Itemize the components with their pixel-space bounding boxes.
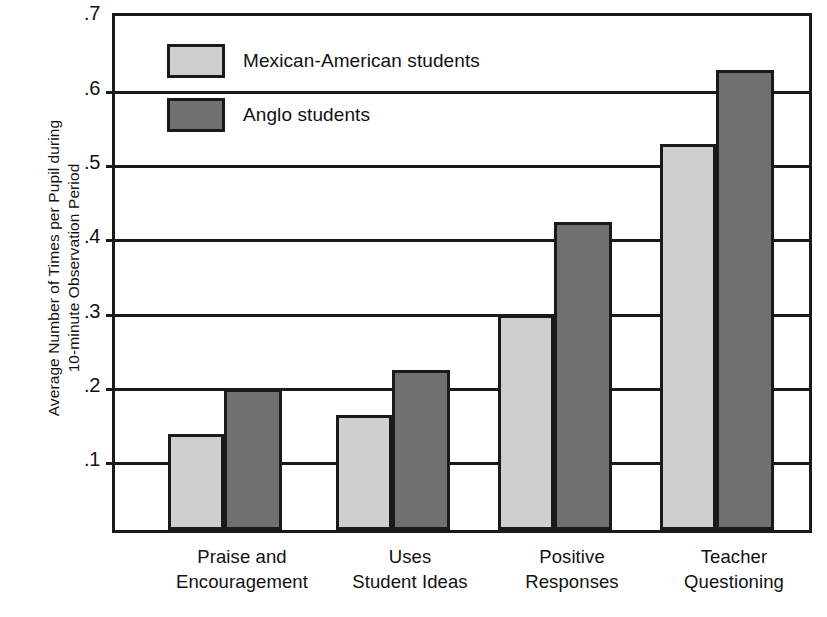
bar-praise-mexican-american[interactable] [168, 434, 224, 530]
y-tick-label-0_1: .1 [84, 449, 100, 469]
bar-student-ideas-mexican-american[interactable] [336, 415, 392, 530]
legend-label-anglo: Anglo students [243, 104, 370, 126]
legend-swatch-light-icon [167, 44, 225, 78]
tick-mark-0_2 [106, 388, 115, 391]
x-label-teacher-line-2: Questioning [634, 570, 827, 595]
legend-entry-mexican-american[interactable]: Mexican-American students [167, 38, 727, 84]
tick-mark-0_3 [106, 314, 115, 317]
y-axis-tick-labels: .7 .6 .5 .4 .3 .2 .1 [48, 0, 106, 540]
bar-student-ideas-anglo[interactable] [392, 370, 450, 530]
tick-mark-0_1 [106, 462, 115, 465]
y-axis-title: Average Number of Times per Pupil during… [0, 0, 46, 540]
legend: Mexican-American students Anglo students [167, 38, 727, 138]
y-tick-label-0_7: .7 [84, 3, 100, 23]
y-tick-label-0_4: .4 [84, 226, 100, 246]
bar-teacher-questioning-anglo[interactable] [716, 70, 774, 530]
x-axis-category-labels: Praise and Encouragement Uses Student Id… [112, 541, 812, 611]
y-tick-label-0_5: .5 [84, 152, 100, 172]
plot-area: Mexican-American students Anglo students [112, 13, 812, 533]
legend-label-mexican-american: Mexican-American students [243, 50, 480, 72]
bar-praise-anglo[interactable] [224, 389, 282, 530]
x-label-teacher-line-1: Teacher [634, 545, 827, 570]
x-label-teacher-questioning: Teacher Questioning [634, 545, 827, 595]
y-tick-label-0_3: .3 [84, 301, 100, 321]
bar-teacher-questioning-mexican-american[interactable] [660, 144, 716, 530]
y-tick-label-0_2: .2 [84, 375, 100, 395]
tick-mark-0_4 [106, 239, 115, 242]
bar-chart-figure: Average Number of Times per Pupil during… [0, 0, 827, 617]
bar-positive-responses-anglo[interactable] [554, 222, 612, 530]
bar-positive-responses-mexican-american[interactable] [498, 315, 554, 530]
y-tick-label-0_6: .6 [84, 78, 100, 98]
tick-mark-0_5 [106, 165, 115, 168]
legend-swatch-dark-icon [167, 98, 225, 132]
legend-entry-anglo[interactable]: Anglo students [167, 92, 727, 138]
tick-mark-0_6 [106, 91, 115, 94]
